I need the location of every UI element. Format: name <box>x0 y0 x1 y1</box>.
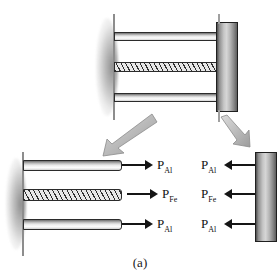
bars-aluminum-bar-upper <box>23 160 122 171</box>
plate-force-label-top: PAl <box>201 158 216 175</box>
bars-force-label-bottom: PAl <box>157 217 172 234</box>
plate-force-arrow-top-icon <box>224 160 255 170</box>
plate-force-label-bottom: PAl <box>201 217 216 234</box>
bars-force-arrow-middle-icon <box>127 189 158 199</box>
plate-force-label-middle: PFe <box>201 187 216 204</box>
plate-force-subscript-top: Al <box>208 166 216 175</box>
bars-steel-bar <box>23 189 122 201</box>
bars-force-arrow-top-icon <box>122 160 153 170</box>
top-assembly-steel-bar <box>114 62 222 72</box>
exploded-arrow-to-plate-icon <box>218 114 252 152</box>
bars-force-label-middle: PFe <box>162 187 177 204</box>
plate-fbd-end-plate <box>255 152 277 242</box>
exploded-arrow-to-bars-icon <box>100 112 158 158</box>
figure-caption: (a) <box>0 255 280 271</box>
bars-force-subscript-top: Al <box>164 166 172 175</box>
bars-force-arrow-bottom-icon <box>122 219 153 229</box>
plate-force-subscript-middle: Fe <box>208 195 216 204</box>
top-assembly-aluminum-bar-lower <box>114 93 222 102</box>
bars-force-label-top: PAl <box>157 158 172 175</box>
top-assembly-end-plate <box>216 22 238 112</box>
plate-force-arrow-middle-icon <box>224 189 255 199</box>
plate-force-arrow-bottom-icon <box>224 219 255 229</box>
plate-force-subscript-bottom: Al <box>208 225 216 234</box>
figure-composite-bar-free-body-diagram: PAl PFe PAl PAl PFe <box>0 0 280 277</box>
bars-aluminum-bar-lower <box>23 219 122 230</box>
bars-force-subscript-bottom: Al <box>164 225 172 234</box>
top-assembly-aluminum-bar-upper <box>114 32 222 41</box>
bars-force-subscript-middle: Fe <box>169 195 177 204</box>
top-plate-guide-line-upper <box>218 14 220 24</box>
